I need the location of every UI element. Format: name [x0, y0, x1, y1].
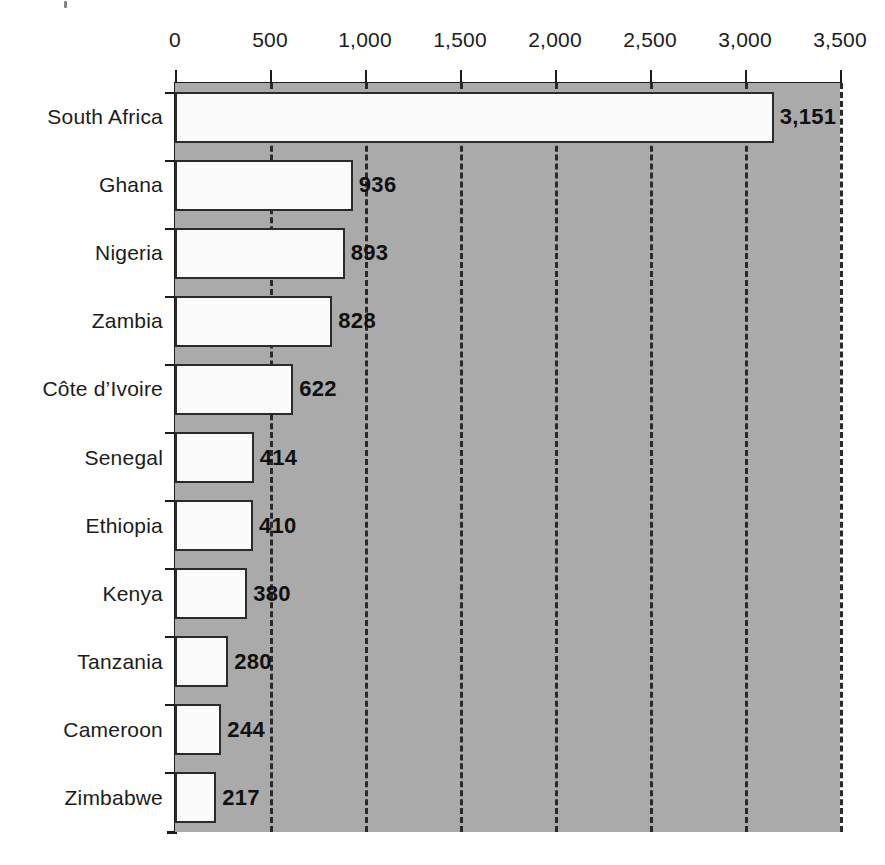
- category-label: Zambia: [92, 309, 163, 333]
- x-tick-label: 3,500: [813, 28, 867, 52]
- gridline: [460, 83, 463, 832]
- category-label: Senegal: [85, 446, 163, 470]
- category-label: Ethiopia: [86, 514, 164, 538]
- category-label: Côte d’Ivoire: [43, 377, 164, 401]
- x-tick-label: 500: [252, 28, 288, 52]
- bar: [175, 568, 247, 619]
- gridline: [555, 83, 558, 832]
- category-label: Tanzania: [77, 650, 163, 674]
- x-tick-label: 2,500: [623, 28, 677, 52]
- bar-chart: 05001,0001,5002,0002,5003,0003,500 South…: [0, 0, 885, 865]
- bar-value-label: 280: [234, 649, 272, 675]
- bar: [175, 228, 345, 279]
- bar: [175, 704, 221, 755]
- bar: [175, 432, 254, 483]
- gridline: [840, 83, 843, 832]
- bar: [175, 160, 353, 211]
- bar-value-label: 3,151: [780, 104, 837, 130]
- bar-value-label: 936: [359, 172, 397, 198]
- bar-value-label: 893: [351, 240, 389, 266]
- bar-value-label: 410: [259, 513, 297, 539]
- bar: [175, 500, 253, 551]
- bar-value-label: 828: [338, 308, 376, 334]
- gridline: [650, 83, 653, 832]
- bar-value-label: 622: [299, 376, 337, 402]
- x-tick-label: 1,000: [338, 28, 392, 52]
- scan-artifact-speck: [64, 1, 67, 8]
- bar: [175, 92, 774, 143]
- gridline: [745, 83, 748, 832]
- bar-value-label: 414: [260, 445, 298, 471]
- x-tick-label: 3,000: [718, 28, 772, 52]
- bar-value-label: 244: [227, 717, 265, 743]
- bar: [175, 296, 332, 347]
- category-label: Nigeria: [95, 241, 163, 265]
- bar: [175, 636, 228, 687]
- x-tick-label: 1,500: [433, 28, 487, 52]
- category-label: Kenya: [102, 582, 163, 606]
- x-tick-label: 0: [169, 28, 181, 52]
- bar-value-label: 380: [253, 581, 291, 607]
- category-label: Ghana: [99, 173, 163, 197]
- category-label: Cameroon: [63, 718, 163, 742]
- bar-value-label: 217: [222, 785, 260, 811]
- bar: [175, 364, 293, 415]
- x-tick-label: 2,000: [528, 28, 582, 52]
- category-label: Zimbabwe: [65, 786, 163, 810]
- category-label: South Africa: [47, 105, 163, 129]
- bar: [175, 772, 216, 823]
